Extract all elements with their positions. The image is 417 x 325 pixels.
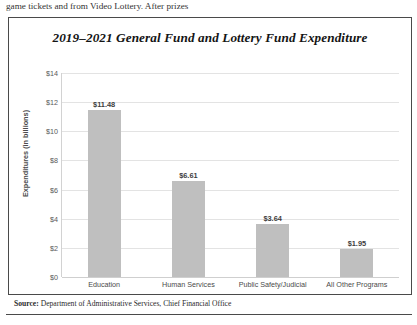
y-axis-tick-label: $8 <box>18 156 58 165</box>
bar-education <box>88 110 121 277</box>
bar-value-label: $6.61 <box>148 171 228 180</box>
source-label: Source: <box>14 299 39 308</box>
bar-value-label: $3.64 <box>233 214 313 223</box>
y-axis-tick-label: $6 <box>18 186 58 195</box>
preceding-paragraph-text: game tickets and from Video Lottery. Aft… <box>6 1 188 12</box>
x-axis-tick-label: Public Safety/Judicial <box>231 280 315 289</box>
y-axis-tick-label: $4 <box>18 215 58 224</box>
x-axis-tick-label: Education <box>62 280 146 289</box>
bar-public-safety-judicial <box>256 224 289 277</box>
gridline <box>62 277 399 278</box>
bar-human-services <box>172 181 205 277</box>
y-axis-tick-label: $0 <box>18 273 58 282</box>
figure-frame: 2019–2021 General Fund and Lottery Fund … <box>8 17 412 295</box>
y-axis-title: Expenditures (in billions) <box>21 0 33 56</box>
y-axis-tick-label: $12 <box>18 98 58 107</box>
plot-area: $14$12$10$8$6$4$2$0$11.48Education$6.61H… <box>61 73 399 277</box>
bar-value-label: $1.95 <box>317 239 397 248</box>
source-note: Source: Department of Administrative Ser… <box>14 299 231 308</box>
x-axis-tick-label: Human Services <box>146 280 230 289</box>
bottom-divider <box>6 314 412 315</box>
chart-plot-wrapper: Expenditures (in billions) $14$12$10$8$6… <box>9 18 413 296</box>
y-axis-tick-label: $10 <box>18 127 58 136</box>
source-value: Department of Administrative Services, C… <box>39 299 232 308</box>
x-axis-tick-label: All Other Programs <box>315 280 399 289</box>
bar-all-other-programs <box>340 249 373 277</box>
y-axis-tick-label: $2 <box>18 244 58 253</box>
bar-value-label: $11.48 <box>64 100 144 109</box>
gridline <box>62 73 399 74</box>
y-axis-tick-label: $14 <box>18 69 58 78</box>
